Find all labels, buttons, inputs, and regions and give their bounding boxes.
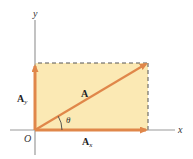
vector-ax-label: Ax bbox=[82, 136, 93, 149]
vector-components-diagram: y x O A θ Ax Ay bbox=[0, 0, 193, 159]
x-axis-label: x bbox=[177, 124, 183, 135]
vector-ay-label: Ay bbox=[17, 93, 28, 106]
vector-a-label: A bbox=[81, 88, 89, 99]
y-axis-label: y bbox=[32, 8, 38, 19]
origin-label: O bbox=[24, 133, 31, 144]
vector-ay-subscript: y bbox=[23, 98, 28, 106]
angle-theta-label: θ bbox=[66, 115, 71, 125]
vector-ax-subscript: x bbox=[88, 141, 93, 149]
